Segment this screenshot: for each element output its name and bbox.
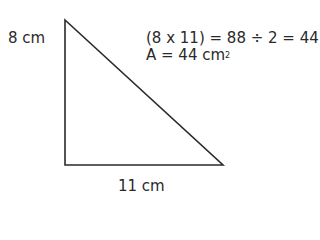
area-exponent: 2 (225, 51, 230, 60)
area-text: A = 44 cm (146, 46, 225, 64)
base-label: 11 cm (118, 177, 165, 195)
height-label: 8 cm (8, 29, 45, 47)
calc-line-1: (8 x 11) = 88 ÷ 2 = 44 (146, 29, 319, 47)
calc-line-2: A = 44 cm2 (146, 46, 230, 64)
